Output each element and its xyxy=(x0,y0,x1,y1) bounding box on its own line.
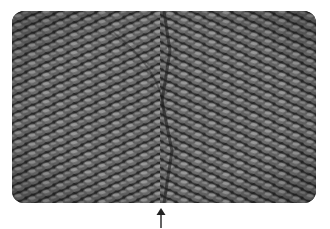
arrow-up-icon xyxy=(155,208,167,228)
knit-texture xyxy=(12,11,316,203)
knit-fabric-photo xyxy=(12,11,316,203)
